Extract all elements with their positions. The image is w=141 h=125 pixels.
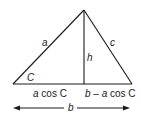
left-segment-label: a cos C bbox=[33, 88, 67, 99]
triangle-diagram: a c h C a cos C b – a cos C b bbox=[0, 0, 141, 125]
angle-c-label: C bbox=[27, 72, 35, 83]
side-a-label: a bbox=[42, 37, 48, 48]
side-c-label: c bbox=[110, 37, 115, 48]
right-segment-label: b – a cos C bbox=[85, 88, 136, 99]
side-a-line bbox=[13, 10, 84, 84]
height-label: h bbox=[87, 52, 93, 63]
side-c-line bbox=[84, 10, 132, 84]
arrow-right-icon bbox=[123, 106, 130, 111]
arrow-left-icon bbox=[13, 106, 20, 111]
base-b-label: b bbox=[68, 102, 74, 113]
